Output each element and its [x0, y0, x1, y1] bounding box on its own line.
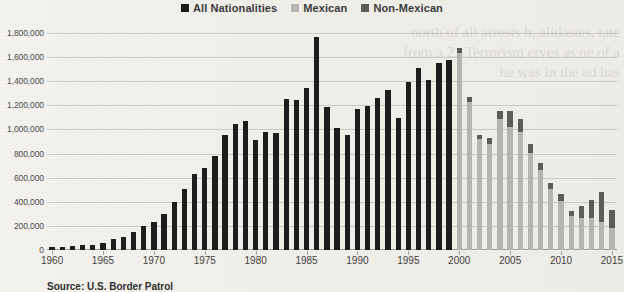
bar-1966[interactable]	[111, 239, 116, 250]
x-tick-mark	[459, 251, 460, 255]
bar-1995[interactable]	[406, 82, 411, 250]
bar-segment-all-nationalities	[182, 189, 187, 250]
bar-2003[interactable]	[487, 138, 492, 250]
bar-1994[interactable]	[396, 118, 401, 250]
y-tick-label: 1,000,000	[7, 124, 44, 134]
bar-2009[interactable]	[548, 183, 553, 250]
bar-1971[interactable]	[161, 214, 166, 250]
bar-1984[interactable]	[294, 100, 299, 250]
bar-1969[interactable]	[141, 226, 146, 250]
bar-1962[interactable]	[70, 246, 75, 250]
bar-1970[interactable]	[151, 222, 156, 250]
bar-segment-all-nationalities	[314, 37, 319, 250]
bar-1967[interactable]	[121, 237, 126, 250]
bar-segment-mexican	[497, 119, 502, 250]
bar-segment-non-mexican	[538, 163, 543, 170]
legend-item-non_mexican[interactable]: Non-Mexican	[361, 2, 443, 14]
bar-segment-all-nationalities	[131, 232, 136, 250]
bar-2005[interactable]	[507, 111, 512, 250]
bar-2004[interactable]	[497, 111, 502, 250]
bar-1965[interactable]	[100, 243, 105, 250]
bar-1977[interactable]	[222, 135, 227, 250]
bar-2013[interactable]	[589, 200, 594, 250]
bar-1991[interactable]	[365, 106, 370, 250]
x-tick-label: 1965	[92, 255, 114, 266]
bar-segment-non-mexican	[579, 206, 584, 218]
bar-1976[interactable]	[212, 156, 217, 250]
bar-segment-all-nationalities	[161, 214, 166, 250]
bar-1997[interactable]	[426, 80, 431, 250]
bar-1980[interactable]	[253, 140, 258, 250]
bar-1992[interactable]	[375, 98, 380, 250]
y-tick-label: 600,000	[14, 173, 44, 183]
bar-1975[interactable]	[202, 168, 207, 250]
chart-legend: All NationalitiesMexicanNon-Mexican	[0, 2, 624, 14]
bar-2007[interactable]	[528, 144, 533, 250]
bar-segment-all-nationalities	[70, 246, 75, 250]
bar-1963[interactable]	[80, 245, 85, 250]
bar-1990[interactable]	[355, 109, 360, 250]
bar-segment-all-nationalities	[202, 168, 207, 250]
bar-1998[interactable]	[436, 63, 441, 250]
bar-1979[interactable]	[243, 121, 248, 250]
bar-2011[interactable]	[569, 211, 574, 250]
bar-2010[interactable]	[558, 194, 563, 250]
bar-segment-all-nationalities	[446, 60, 451, 250]
bar-2001[interactable]	[467, 97, 472, 250]
bar-1996[interactable]	[416, 68, 421, 250]
bar-2000[interactable]	[457, 48, 462, 250]
legend-item-mexican[interactable]: Mexican	[291, 2, 347, 14]
bar-2006[interactable]	[518, 119, 523, 250]
bar-1972[interactable]	[172, 202, 177, 250]
bar-1989[interactable]	[345, 135, 350, 250]
x-tick-mark	[561, 251, 562, 255]
bar-1986[interactable]	[314, 37, 319, 250]
bar-2002[interactable]	[477, 135, 482, 250]
bar-1978[interactable]	[233, 124, 238, 250]
legend-swatch-all	[181, 4, 189, 12]
bar-1987[interactable]	[324, 107, 329, 250]
bar-1985[interactable]	[304, 88, 309, 251]
bar-segment-non-mexican	[497, 111, 502, 119]
bar-1968[interactable]	[131, 232, 136, 250]
bar-1982[interactable]	[273, 133, 278, 250]
bar-1999[interactable]	[446, 60, 451, 250]
bar-1974[interactable]	[192, 174, 197, 250]
bar-segment-all-nationalities	[141, 226, 146, 250]
x-tick-label: 1995	[397, 255, 419, 266]
bar-segment-mexican	[518, 132, 523, 250]
bar-segment-all-nationalities	[60, 247, 65, 250]
bar-2014[interactable]	[599, 192, 604, 250]
legend-item-all[interactable]: All Nationalities	[181, 2, 277, 14]
bar-1981[interactable]	[263, 132, 268, 250]
x-tick-mark	[103, 251, 104, 255]
bar-1973[interactable]	[182, 189, 187, 250]
bar-1993[interactable]	[385, 90, 390, 250]
bar-2015[interactable]	[609, 210, 614, 250]
x-tick-mark	[205, 251, 206, 255]
bar-1961[interactable]	[60, 247, 65, 250]
bar-1964[interactable]	[90, 245, 95, 250]
bar-segment-all-nationalities	[172, 202, 177, 250]
bar-segment-all-nationalities	[375, 98, 380, 250]
bar-segment-mexican	[538, 170, 543, 250]
bar-2012[interactable]	[579, 206, 584, 250]
bar-segment-non-mexican	[609, 210, 614, 228]
bar-1960[interactable]	[49, 247, 54, 250]
bar-segment-all-nationalities	[355, 109, 360, 250]
plot-area	[47, 33, 617, 250]
x-tick-label: 1960	[41, 255, 63, 266]
bar-1988[interactable]	[334, 128, 339, 250]
bar-segment-non-mexican	[599, 192, 604, 222]
bar-segment-non-mexican	[518, 119, 523, 132]
bar-segment-all-nationalities	[192, 174, 197, 250]
x-tick-mark	[307, 251, 308, 255]
bar-1983[interactable]	[284, 99, 289, 250]
bar-segment-mexican	[589, 218, 594, 250]
bar-segment-all-nationalities	[284, 99, 289, 250]
x-tick-mark	[357, 251, 358, 255]
x-tick-mark	[154, 251, 155, 255]
bar-segment-all-nationalities	[324, 107, 329, 250]
bar-2008[interactable]	[538, 163, 543, 250]
bar-segment-all-nationalities	[345, 135, 350, 250]
